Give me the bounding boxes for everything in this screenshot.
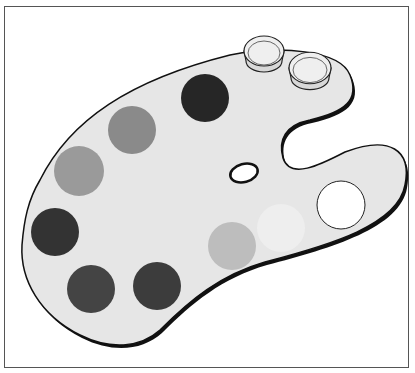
paint-cup-2 (289, 52, 331, 89)
paint-dab-7 (208, 222, 256, 270)
paint-dab-5 (67, 265, 115, 313)
paint-dab-4 (31, 208, 79, 256)
palette-illustration (0, 0, 415, 373)
paint-cup-1 (244, 36, 284, 72)
paint-dab-2 (108, 106, 156, 154)
paint-dab-6 (133, 262, 181, 310)
paint-dab-3 (54, 146, 104, 196)
paint-dab-1 (181, 74, 229, 122)
paint-dab-8 (257, 204, 305, 252)
paint-dab-9 (317, 181, 365, 229)
